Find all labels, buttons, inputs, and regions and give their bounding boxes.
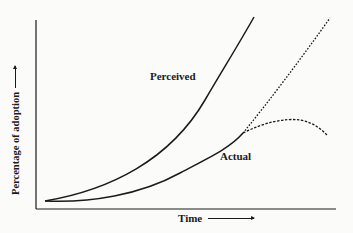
y-axis-title: Percentage of adoption [10, 66, 21, 195]
y-axis-label: Percentage of adoption [10, 92, 21, 195]
x-axis-label: Time [178, 212, 202, 224]
adoption-chart [0, 0, 353, 233]
arrow-up-icon [15, 66, 16, 88]
perceived-label: Perceived [150, 70, 196, 82]
actual-projection-growth [243, 18, 330, 133]
actual-curve [45, 133, 243, 201]
perceived-curve [45, 17, 254, 201]
actual-projection-decline [243, 120, 327, 135]
actual-label: Actual [220, 150, 251, 162]
x-axis-title: Time [178, 212, 254, 224]
arrow-right-icon [208, 218, 254, 219]
